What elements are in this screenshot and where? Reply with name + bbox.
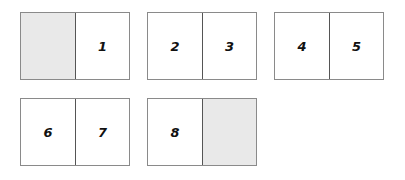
page-2: 2 <box>148 13 202 79</box>
blank-page <box>202 99 256 165</box>
spread-4: 6 7 <box>20 98 130 166</box>
page-7: 7 <box>75 99 129 165</box>
page-5: 5 <box>329 13 383 79</box>
spread-3: 4 5 <box>274 12 384 80</box>
spread-1: 1 <box>20 12 130 80</box>
page-6: 6 <box>21 99 75 165</box>
page-1: 1 <box>75 13 129 79</box>
blank-page <box>21 13 75 79</box>
spread-2: 2 3 <box>147 12 257 80</box>
page-8: 8 <box>148 99 202 165</box>
page-4: 4 <box>275 13 329 79</box>
spread-5: 8 <box>147 98 257 166</box>
page-3: 3 <box>202 13 256 79</box>
